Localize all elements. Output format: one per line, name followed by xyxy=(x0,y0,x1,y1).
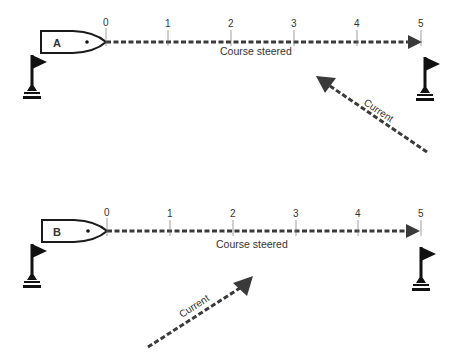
end-flag-a-icon xyxy=(416,57,440,101)
start-flag-b-icon xyxy=(23,244,47,288)
current-arrow-b: Current xyxy=(148,276,253,347)
tick-b-0: 0 xyxy=(104,207,110,218)
boat-b: B xyxy=(42,220,107,242)
tick-a-2: 2 xyxy=(228,18,234,29)
tick-a-1: 1 xyxy=(165,18,171,29)
course-label-a: Course steered xyxy=(220,45,292,57)
tick-b-2: 2 xyxy=(230,208,236,219)
course-label-b: Course steered xyxy=(216,238,288,250)
tick-b-4: 4 xyxy=(355,208,361,219)
end-flag-b-icon xyxy=(412,247,436,291)
tick-b-1: 1 xyxy=(167,208,173,219)
tick-b-5: 5 xyxy=(418,208,424,219)
scenario-b: B 0 1 2 3 4 5 Course steered xyxy=(23,207,436,347)
boat-b-label: B xyxy=(53,226,61,238)
current-arrow-a: Current xyxy=(316,76,427,152)
boat-a: A xyxy=(41,31,106,53)
tick-b-3: 3 xyxy=(293,208,299,219)
boat-a-position-dot xyxy=(85,40,89,44)
course-line-b xyxy=(107,224,420,238)
boat-a-label: A xyxy=(53,37,61,49)
tick-a-5: 5 xyxy=(418,18,424,29)
tick-a-3: 3 xyxy=(291,18,297,29)
scenario-a: A 0 1 2 3 4 5 Course steered xyxy=(23,17,440,152)
diagram-canvas: A 0 1 2 3 4 5 Course steered xyxy=(0,0,456,363)
current-label-b: Current xyxy=(177,292,211,320)
boat-b-position-dot xyxy=(86,229,90,233)
current-label-a: Current xyxy=(362,97,396,125)
tick-a-0: 0 xyxy=(103,17,109,28)
tick-a-4: 4 xyxy=(354,18,360,29)
start-flag-a-icon xyxy=(23,55,47,99)
